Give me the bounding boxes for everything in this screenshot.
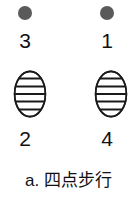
- striped-oval-icon-right: [94, 70, 128, 118]
- filled-circle-icon-left: [18, 6, 32, 20]
- four-point-gait-figure: 3 1: [0, 0, 137, 197]
- step-number-bottom-left: 2: [12, 128, 38, 149]
- figure-caption: a. 四点步行: [0, 166, 137, 191]
- filled-circle-icon-right: [100, 6, 114, 20]
- step-number-top-right: 1: [94, 30, 120, 51]
- step-number-bottom-right: 4: [94, 128, 120, 149]
- step-number-top-left: 3: [12, 30, 38, 51]
- striped-oval-icon-left: [13, 70, 47, 118]
